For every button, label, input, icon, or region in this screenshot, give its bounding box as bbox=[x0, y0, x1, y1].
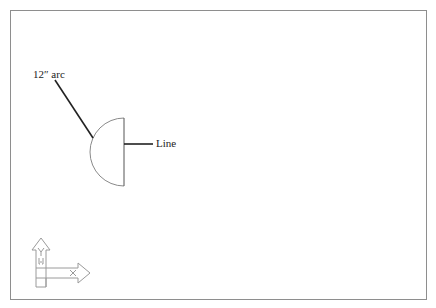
drawing-canvas[interactable]: 12″ arc Line bbox=[0, 0, 436, 308]
arc-geometry bbox=[90, 118, 124, 186]
line-label: Line bbox=[156, 138, 176, 149]
ucs-icon bbox=[32, 238, 90, 287]
arc-label: 12″ arc bbox=[33, 69, 65, 80]
arc-leader-line bbox=[55, 80, 93, 138]
drawing-geometry bbox=[0, 0, 436, 308]
